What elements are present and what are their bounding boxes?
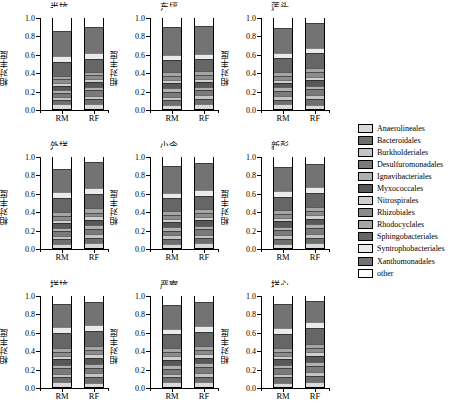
x-axis-line: [150, 249, 218, 250]
legend-swatch: [358, 124, 373, 133]
y-tick: [146, 212, 150, 213]
stacked-bar-rf: [305, 18, 325, 110]
stacked-bar-rm: [273, 296, 293, 388]
y-axis-line: [40, 18, 41, 110]
legend-label: Sphingobacteriales: [377, 232, 438, 241]
y-tick-label: 0.2: [135, 226, 145, 235]
y-axis-label: 相对丰度: [109, 161, 121, 253]
x-tick-label: RM: [165, 113, 178, 123]
legend-item: Rhizobiales: [358, 207, 458, 219]
bar-segment: [163, 60, 181, 72]
bar-segment: [85, 7, 103, 27]
bar-segment: [274, 383, 292, 387]
x-tick-label: RF: [199, 113, 209, 123]
panel-grid: 半坑相对丰度0.00.20.40.60.81.0RMRF东坪相对丰度0.00.2…: [0, 0, 356, 416]
panel-9: 垟心相对丰度0.00.20.40.60.81.0RMRF: [221, 278, 339, 416]
y-axis-label: 相对丰度: [109, 300, 121, 392]
y-tick: [257, 296, 261, 297]
y-tick: [257, 92, 261, 93]
y-tick-label: 1.0: [135, 14, 145, 23]
x-tick-label: RM: [55, 391, 68, 401]
bar-segment: [53, 333, 71, 348]
y-tick: [36, 73, 40, 74]
legend-item: Sphingobacteriales: [358, 231, 458, 243]
bar-segment: [306, 301, 324, 322]
bar-segment: [274, 304, 292, 328]
bar-segment: [195, 59, 213, 70]
bar-segment: [85, 383, 103, 387]
y-tick-label: 0.8: [135, 32, 145, 41]
y-tick: [36, 370, 40, 371]
y-tick: [36, 333, 40, 334]
y-tick: [257, 194, 261, 195]
y-tick-label: 1.0: [135, 292, 145, 301]
y-tick: [36, 175, 40, 176]
plot-area: 0.00.20.40.60.81.0RMRF: [40, 296, 108, 388]
legend-swatch: [358, 196, 373, 205]
y-axis-label: 相对丰度: [0, 300, 11, 392]
legend-label: Ignavibacteriales: [377, 172, 432, 181]
bar-segment: [85, 194, 103, 208]
plot-area: 0.00.20.40.60.81.0RMRF: [150, 296, 218, 388]
y-tick: [257, 314, 261, 315]
legend-label: Anaerolineales: [377, 124, 425, 133]
legend-label: Nitrospirales: [377, 196, 418, 205]
bar-segment: [163, 7, 181, 27]
y-tick-label: 0.6: [135, 328, 145, 337]
y-tick-label: 0.2: [246, 365, 256, 374]
y-tick-label: 1.0: [246, 14, 256, 23]
legend-swatch: [358, 160, 373, 169]
bar-segment: [195, 332, 213, 347]
bar-segment: [163, 244, 181, 248]
bar-segment: [85, 285, 103, 302]
bar-segment: [195, 104, 213, 109]
y-tick: [146, 351, 150, 352]
x-tick-end: [329, 249, 330, 252]
bar-segment: [163, 198, 181, 211]
y-tick: [36, 55, 40, 56]
bar-segment: [195, 302, 213, 326]
bar-segment: [306, 164, 324, 187]
bar-segment: [306, 243, 324, 248]
y-tick-label: 0.8: [25, 310, 35, 319]
bar-segment: [53, 382, 71, 387]
plot-area: 0.00.20.40.60.81.0RMRF: [40, 18, 108, 110]
y-tick-label: 0.6: [25, 50, 35, 59]
y-tick-label: 1.0: [25, 292, 35, 301]
x-tick-end: [218, 249, 219, 252]
bar-segment: [53, 31, 71, 56]
legend-label: other: [377, 269, 393, 278]
y-tick-label: 0.4: [135, 208, 145, 217]
bar-segment: [53, 62, 71, 76]
legend-item: Ignavibacteriales: [358, 170, 458, 182]
y-tick: [146, 55, 150, 56]
bar-segment: [274, 167, 292, 191]
y-tick-label: 1.0: [135, 153, 145, 162]
y-axis-line: [150, 296, 151, 388]
bar-segment: [195, 196, 213, 210]
y-tick-label: 0.0: [25, 106, 35, 115]
bar-segment: [53, 146, 71, 169]
legend-item: Bacteroidales: [358, 134, 458, 146]
legend-swatch: [358, 244, 373, 253]
y-tick-label: 0.0: [135, 384, 145, 393]
bar-segment: [85, 302, 103, 325]
y-tick-label: 0.2: [246, 226, 256, 235]
y-tick: [257, 333, 261, 334]
stacked-bar-rm: [162, 18, 182, 110]
y-tick: [257, 212, 261, 213]
stacked-bar-rf: [194, 296, 214, 388]
plot-area: 0.00.20.40.60.81.0RMRF: [40, 157, 108, 249]
y-tick-label: 0.0: [246, 106, 256, 115]
panel-7: 垟坑相对丰度0.00.20.40.60.81.0RMRF: [0, 278, 118, 416]
y-tick: [36, 296, 40, 297]
x-tick-end: [150, 388, 151, 391]
y-tick-label: 0.2: [25, 226, 35, 235]
legend-swatch: [358, 172, 373, 181]
bar-segment: [195, 163, 213, 190]
plot-area: 0.00.20.40.60.81.0RMRF: [261, 296, 329, 388]
y-axis-line: [40, 296, 41, 388]
bar-segment: [85, 27, 103, 53]
legend-label: Rhizobiales: [377, 208, 415, 217]
y-tick: [257, 351, 261, 352]
